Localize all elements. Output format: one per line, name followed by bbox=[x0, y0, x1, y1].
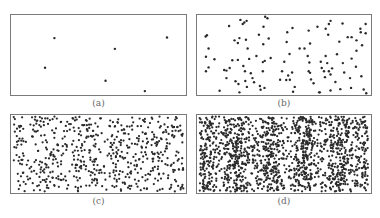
scatter-panel-c bbox=[10, 114, 187, 194]
scatter-plot-a bbox=[11, 15, 186, 95]
caption-d: (d) bbox=[254, 196, 314, 206]
scatter-panel-d bbox=[196, 114, 372, 194]
caption-a: (a) bbox=[69, 98, 129, 108]
caption-c: (c) bbox=[69, 196, 129, 206]
scatter-plot-d bbox=[197, 115, 371, 193]
scatter-plot-b bbox=[197, 15, 371, 95]
caption-b: (b) bbox=[254, 98, 314, 108]
scatter-panel-a bbox=[10, 14, 187, 96]
scatter-plot-c bbox=[11, 115, 186, 193]
scatter-panel-b bbox=[196, 14, 372, 96]
